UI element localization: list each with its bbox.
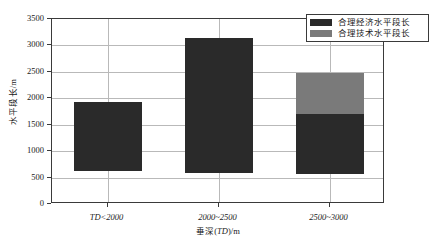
- y-axis-tick-label: 3500: [27, 14, 44, 23]
- x-axis-tick-label: TD<2000: [90, 212, 124, 222]
- x-axis-title-suffix: )/m: [228, 226, 240, 236]
- x-axis-title-prefix: 垂深(: [196, 226, 217, 236]
- x-axis-tick-mark: [218, 203, 219, 207]
- x-axis-tick-mark: [107, 203, 108, 207]
- y-axis-tick-label: 500: [31, 172, 44, 181]
- legend-swatch-economic-icon: [310, 19, 332, 26]
- gridline: [52, 178, 383, 179]
- chart-legend: 合理经济水平段长 合理技术水平段长: [306, 14, 429, 42]
- legend-label-economic: 合理经济水平段长: [338, 17, 410, 27]
- x-axis-tick-mark: [329, 203, 330, 207]
- x-axis-tick-label: 2500~3000: [309, 212, 348, 222]
- legend-item-economic: 合理经济水平段长: [310, 17, 425, 27]
- legend-item-technical: 合理技术水平段长: [310, 28, 425, 38]
- y-axis-tick-label: 1000: [27, 146, 44, 155]
- x-axis-tick-label: 2000~2500: [198, 212, 237, 222]
- bar-segment: [185, 38, 253, 173]
- plot-area: [51, 18, 384, 203]
- y-axis-title-text: 水平段长/m: [6, 79, 18, 125]
- y-axis-tick-label: 2000: [27, 93, 44, 102]
- y-axis-tick-label: 2500: [27, 66, 44, 75]
- legend-swatch-technical-icon: [310, 30, 332, 37]
- bar-segment: [296, 114, 364, 174]
- y-axis-tick-label: 0: [40, 199, 44, 208]
- y-axis-tick-label: 3000: [27, 40, 44, 49]
- legend-label-technical: 合理技术水平段长: [338, 28, 410, 38]
- y-axis-title: 水平段长/m: [6, 52, 18, 152]
- y-axis-tick-label: 1500: [27, 119, 44, 128]
- x-axis-title-italic: TD: [217, 226, 228, 236]
- bar-segment: [74, 102, 142, 171]
- x-axis-title: 垂深(TD)/m: [0, 224, 436, 236]
- y-axis-tick-mark: [47, 203, 51, 204]
- chart-figure: 水平段长/m 0500100015002000250030003500 TD<2…: [0, 0, 436, 243]
- bar-segment: [296, 73, 364, 114]
